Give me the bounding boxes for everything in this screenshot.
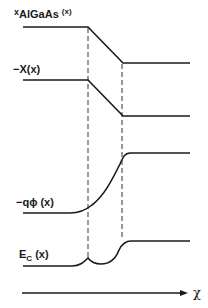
label-x-algaas: xAlGaAs (x) <box>14 9 72 20</box>
x-axis-arrowhead-icon <box>180 290 188 296</box>
label-x-algaas-main: AlGaAs <box>19 8 59 20</box>
curve-chi <box>23 80 190 116</box>
label-x-algaas-prefix: x <box>14 7 19 17</box>
label-ec-arg: (x) <box>35 248 48 260</box>
x-axis-label: χ <box>193 285 201 300</box>
label-potential: −qϕ (x) <box>16 197 54 208</box>
curve-x-algaas <box>23 27 190 63</box>
label-ec-sub: C <box>26 254 32 263</box>
label-x-algaas-arg: (x) <box>62 7 72 16</box>
label-conduction-band: EC (x) <box>19 249 49 260</box>
label-chi: −Χ(x) <box>13 64 40 75</box>
